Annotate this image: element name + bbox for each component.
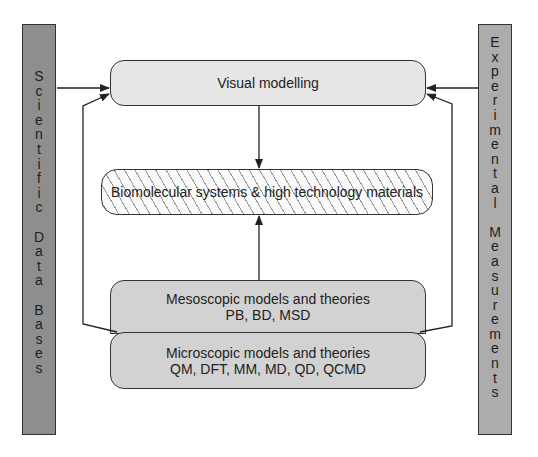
arrow-mesoscopic-to-visual-left: [83, 94, 117, 332]
arrow-mesoscopic-to-visual-right: [420, 94, 452, 332]
connector-arrows: [0, 0, 538, 457]
